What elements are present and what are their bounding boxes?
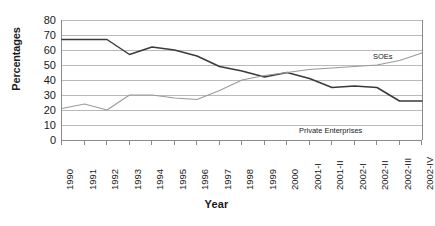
- x-tick: [331, 140, 332, 145]
- x-tick-label: 1997: [223, 169, 233, 190]
- x-axis-ticks: [61, 140, 421, 145]
- y-tick-label: 30: [44, 90, 56, 101]
- x-tick-label: 1994: [155, 169, 165, 190]
- x-tick: [219, 140, 220, 145]
- y-tick-label: 60: [44, 45, 56, 56]
- x-tick: [61, 140, 62, 145]
- x-tick: [106, 140, 107, 145]
- y-tick-label: 40: [44, 75, 56, 86]
- x-axis-tick-labels: 1990199119921993199419951996199719981999…: [61, 146, 421, 194]
- x-tick-label: 1999: [268, 169, 278, 190]
- x-tick: [151, 140, 152, 145]
- x-tick-label: 1998: [245, 169, 255, 190]
- y-tick-label: 20: [44, 105, 56, 116]
- x-tick-label: 2002-II: [380, 160, 390, 190]
- series-line-soes: [62, 40, 422, 102]
- x-tick-label: 2002-IV: [425, 157, 435, 190]
- series-line-private-enterprises: [62, 53, 422, 110]
- x-tick-label: 1990: [65, 169, 75, 190]
- x-tick: [376, 140, 377, 145]
- x-tick: [421, 140, 422, 145]
- x-tick-label: 2002-I: [358, 163, 368, 190]
- x-tick-label: 2001-II: [335, 160, 345, 190]
- y-tick-label: 80: [44, 15, 56, 26]
- x-tick-label: 2002-III: [403, 158, 413, 190]
- x-tick: [196, 140, 197, 145]
- series-lines: [62, 20, 422, 140]
- x-tick: [264, 140, 265, 145]
- x-tick: [241, 140, 242, 145]
- y-tick-label: 0: [50, 135, 56, 146]
- x-tick-label: 1996: [200, 169, 210, 190]
- y-axis-title: Percentages: [10, 9, 24, 109]
- series-label-soes: SOEs: [371, 52, 395, 61]
- x-tick-label: 1995: [178, 169, 188, 190]
- x-tick: [309, 140, 310, 145]
- x-tick: [354, 140, 355, 145]
- series-label-private-enterprises: Private Enterprises: [297, 126, 364, 135]
- x-tick-label: 1993: [133, 169, 143, 190]
- plot-area: SOEs Private Enterprises: [61, 20, 423, 140]
- x-tick-label: 1992: [110, 169, 120, 190]
- y-tick-label: 70: [44, 30, 56, 41]
- y-axis-tick-labels: 01020304050607080: [24, 14, 56, 146]
- x-tick: [399, 140, 400, 145]
- x-tick: [174, 140, 175, 145]
- x-tick-label: 1991: [88, 169, 98, 190]
- y-tick-label: 10: [44, 120, 56, 131]
- x-tick: [129, 140, 130, 145]
- x-tick: [84, 140, 85, 145]
- x-tick-label: 2000: [290, 169, 300, 190]
- x-tick: [286, 140, 287, 145]
- x-tick-label: 2001-I: [313, 163, 323, 190]
- y-tick-label: 50: [44, 60, 56, 71]
- x-axis-title: Year: [0, 198, 433, 210]
